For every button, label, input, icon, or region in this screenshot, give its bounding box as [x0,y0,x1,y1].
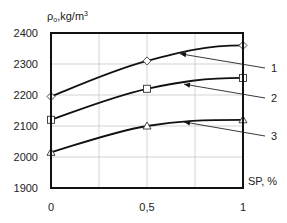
y-tick-label: 2000 [14,151,38,163]
y-axis-label: ρо,kg/m3 [47,10,88,23]
x-axis-label: SP, % [248,175,277,187]
y-tick-label: 2400 [14,27,38,39]
x-tick-labels: 00,51 [48,201,246,213]
leader-line [184,84,265,98]
x-tick-label: 1 [240,201,246,213]
x-tick-label: 0 [48,201,54,213]
legend-label: 2 [271,92,277,104]
y-tick-label: 2100 [14,120,38,132]
leader-line [184,122,265,136]
legend-callouts: 123 [180,52,277,142]
x-tick-label: 0,5 [139,201,154,213]
y-tick-labels: 190020002100220023002400 [14,27,38,194]
arrowhead-icon [184,83,190,88]
y-tick-label: 2300 [14,58,38,70]
grid-lines [51,33,243,188]
leader-line [180,54,265,68]
square-marker [144,85,151,92]
legend-label: 1 [271,62,277,74]
legend-label: 3 [271,130,277,142]
y-tick-label: 2200 [14,89,38,101]
y-tick-label: 1900 [14,182,38,194]
chart: 190020002100220023002400 00,51 123 ρо,kg… [0,0,287,223]
